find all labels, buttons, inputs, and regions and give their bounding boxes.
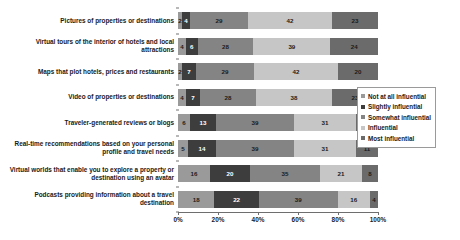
bar-segment: 6	[178, 114, 190, 131]
bar-segment: 28	[200, 89, 256, 106]
x-axis-tick-label: 100%	[370, 216, 386, 223]
legend-item[interactable]: Influential	[361, 123, 431, 134]
bar-segment: 16	[178, 165, 210, 182]
bar-segment-value: 39	[252, 145, 259, 152]
bar-segment-value: 18	[193, 196, 200, 203]
bar-segment: 42	[254, 63, 338, 80]
legend-swatch-icon	[361, 115, 365, 119]
category-label: Traveler-generated reviews or blogs	[2, 119, 174, 127]
legend-swatch-icon	[361, 105, 365, 109]
bar-segment-value: 29	[216, 17, 223, 24]
bar-segment: 18	[178, 191, 214, 208]
bar-row: 514393111	[178, 140, 378, 157]
bar-segment: 20	[338, 63, 378, 80]
bar-segment-value: 4	[372, 196, 375, 203]
bar-segment-value: 20	[227, 170, 234, 177]
x-axis-tick-label: 80%	[332, 216, 345, 223]
bar-segment: 13	[190, 114, 216, 131]
bar-segment: 8	[362, 165, 378, 182]
bar-segment-value: 42	[293, 68, 300, 75]
bar-row: 162035218	[178, 165, 378, 182]
bar-segment: 4	[178, 38, 186, 55]
category-label: Podcasts providing information about a t…	[2, 191, 174, 207]
x-axis-tick	[338, 212, 339, 215]
legend-item[interactable]: Slightly influential	[361, 102, 431, 113]
category-tick	[176, 7, 179, 9]
bar-segment-value: 31	[322, 119, 329, 126]
bar-segment-value: 24	[351, 43, 358, 50]
x-axis-line	[178, 212, 379, 213]
category-tick	[176, 186, 179, 188]
bar-segment-value: 38	[291, 94, 298, 101]
bar-segment-value: 22	[233, 196, 240, 203]
bar-segment-value: 6	[190, 43, 193, 50]
legend-item[interactable]: Not at all influential	[361, 91, 431, 102]
category-tick	[176, 84, 179, 86]
bar-row: 182239164	[178, 191, 378, 208]
bar-segment: 29	[190, 12, 248, 29]
bar-segment: 20	[210, 165, 250, 182]
bar-segment: 29	[196, 63, 254, 80]
plot-area: 2429422346283924272942204728382361339311…	[178, 8, 378, 212]
bar-segment: 14	[188, 140, 216, 157]
bar-segment-value: 29	[222, 68, 229, 75]
bar-segment-value: 7	[191, 94, 194, 101]
bar-segment: 4	[370, 191, 378, 208]
bar-row: 27294220	[178, 63, 378, 80]
legend-label: Most influential	[368, 135, 414, 142]
x-axis-tick-label: 40%	[252, 216, 265, 223]
bar-segment: 31	[294, 114, 356, 131]
bar-segment: 28	[198, 38, 253, 55]
legend-swatch-icon	[361, 94, 365, 98]
bar-segment: 39	[216, 140, 294, 157]
bar-segment: 4	[178, 89, 186, 106]
bar-segment-value: 13	[200, 119, 207, 126]
bar-segment-value: 4	[184, 17, 187, 24]
bar-segment-value: 14	[199, 145, 206, 152]
category-label: Maps that plot hotels, prices and restau…	[2, 68, 174, 76]
bar-segment-value: 4	[180, 94, 183, 101]
bar-segment-value: 28	[222, 43, 229, 50]
plot-wrapper: Pictures of properties or destinationsVi…	[0, 0, 460, 240]
legend-label: Not at all influential	[368, 93, 426, 100]
bar-segment: 24	[330, 38, 378, 55]
legend-label: Somewhat influential	[368, 114, 431, 121]
bar-row: 613393111	[178, 114, 378, 131]
bar-segment: 31	[294, 140, 356, 157]
category-label-column: Pictures of properties or destinationsVi…	[2, 8, 174, 212]
bar-segment-value: 21	[338, 170, 345, 177]
bar-segment-value: 7	[187, 68, 190, 75]
bar-segment: 22	[214, 191, 258, 208]
bar-segment-value: 6	[182, 119, 185, 126]
bar-segment-value: 39	[288, 43, 295, 50]
bar-segment-value: 8	[368, 170, 371, 177]
category-label: Real-time recommendations based on your …	[2, 140, 174, 156]
x-axis-tick-label: 20%	[212, 216, 225, 223]
bar-segment: 6	[186, 38, 198, 55]
x-axis-tick	[218, 212, 219, 215]
bar-segment-value: 39	[295, 196, 302, 203]
legend-item[interactable]: Most influential	[361, 133, 431, 144]
bar-segment-value: 5	[181, 145, 184, 152]
bar-segment: 7	[182, 63, 196, 80]
bar-segment: 7	[186, 89, 200, 106]
bar-row: 24294223	[178, 12, 378, 29]
category-tick	[176, 135, 179, 137]
category-tick	[176, 109, 179, 111]
bar-segment: 39	[253, 38, 330, 55]
bar-segment-value: 23	[352, 17, 359, 24]
legend-label: Slightly influential	[368, 103, 422, 110]
legend-label: Influential	[368, 124, 398, 131]
stacked-bar-chart: Pictures of properties or destinationsVi…	[0, 0, 460, 240]
legend-item[interactable]: Somewhat influential	[361, 112, 431, 123]
bar-segment: 39	[216, 114, 294, 131]
category-label: Pictures of properties or destinations	[2, 17, 174, 25]
bar-segment-value: 4	[180, 43, 183, 50]
category-tick	[176, 33, 179, 35]
bar-segment-value: 28	[225, 94, 232, 101]
bar-segment: 39	[259, 191, 338, 208]
bar-segment: 38	[256, 89, 332, 106]
x-axis-tick	[378, 212, 379, 215]
legend-swatch-icon	[361, 136, 365, 140]
bar-segment: 4	[182, 12, 190, 29]
